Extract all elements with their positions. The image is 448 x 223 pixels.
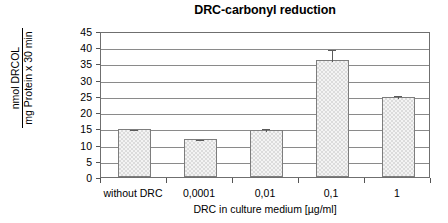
x-axis-tick-label: 1 [364,187,430,199]
bar [316,60,349,177]
y-axis-label-fraction: nmol DRCOL mg Protein x 30 min [10,28,35,127]
error-bar-cap [196,140,204,141]
y-axis-tick-label: 10 [68,140,92,152]
error-bar-cap [328,50,336,51]
bar [250,130,283,177]
x-axis-tick-label: 0,01 [232,187,298,199]
gridline [101,82,429,83]
bar [118,129,151,177]
y-axis-tick-label: 45 [68,26,92,38]
x-axis-tick [166,178,167,183]
y-axis-label-denominator: mg Protein x 30 min [22,28,35,127]
y-axis-tick-label: 25 [68,91,92,103]
y-axis-tick-label: 15 [68,123,92,135]
x-axis-tick [430,178,431,183]
y-axis-tick-label: 30 [68,75,92,87]
x-axis-tick [364,178,365,183]
y-axis-label: nmol DRCOL mg Protein x 30 min [2,18,42,138]
x-axis-tick-label: 0,0001 [166,187,232,199]
y-axis-tick-label: 35 [68,58,92,70]
x-axis-tick [100,178,101,183]
error-bar-cap [130,130,138,131]
bar [382,97,415,177]
y-axis-tick-label: 20 [68,107,92,119]
gridline [101,65,429,66]
x-axis-tick-label: without DRC [100,187,166,199]
plot-area [100,32,430,178]
error-bar-stem [332,50,333,62]
error-bar-cap [262,129,270,130]
error-bar-cap [394,96,402,97]
y-axis-label-numerator: nmol DRCOL [10,44,22,112]
chart-figure: DRC-carbonyl reduction nmol DRCOL mg Pro… [0,0,448,223]
y-axis-tick-label: 5 [68,156,92,168]
bar [184,139,217,177]
x-axis-label: DRC in culture medium [µg/ml] [100,203,430,215]
x-axis-tick [232,178,233,183]
y-axis-tick-label: 40 [68,42,92,54]
gridline [101,98,429,99]
chart-title: DRC-carbonyl reduction [100,3,430,17]
y-axis-tick-label: 0 [68,172,92,184]
x-axis-tick-label: 0,1 [298,187,364,199]
x-axis-tick [298,178,299,183]
gridline [101,114,429,115]
gridline [101,49,429,50]
